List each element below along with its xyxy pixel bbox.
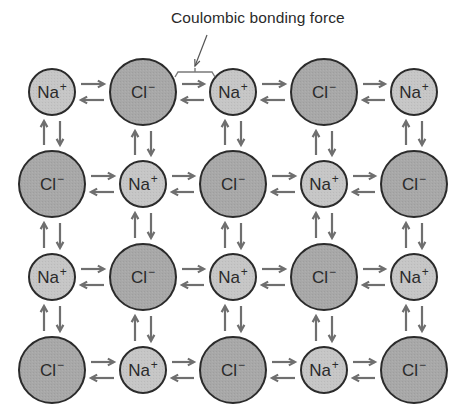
force-arrow-left (172, 189, 194, 196)
force-arrow-right (81, 81, 104, 88)
force-arrow-right (172, 173, 194, 180)
bracket-marker (175, 68, 215, 77)
force-arrow-right (353, 173, 375, 180)
force-arrow-up (41, 223, 48, 248)
force-arrow-right (272, 359, 295, 366)
force-arrow-down (238, 223, 245, 248)
force-arrow-left (262, 97, 285, 104)
sodium-ion: Na+ (29, 69, 75, 115)
chloride-ion: Cl− (110, 59, 176, 125)
force-arrow-right (262, 81, 285, 88)
force-arrow-down (148, 213, 155, 238)
sodium-ion: Na+ (210, 69, 256, 115)
force-arrow-up (403, 306, 410, 331)
pointer-arrow (195, 35, 207, 66)
force-arrow-down (329, 131, 336, 155)
force-arrow-left (91, 189, 114, 196)
sodium-ion: Na+ (120, 347, 166, 393)
chloride-ion: Cl− (291, 244, 357, 310)
force-arrow-right (81, 266, 104, 273)
chloride-ion: Cl− (291, 59, 357, 125)
force-arrow-left (353, 189, 375, 196)
sodium-ion: Na+ (29, 254, 75, 300)
force-arrow-up (313, 316, 320, 341)
force-arrow-left (353, 375, 375, 382)
force-arrow-left (81, 97, 104, 104)
force-arrow-down (329, 316, 336, 341)
force-arrow-left (272, 189, 295, 196)
force-arrow-down (57, 306, 64, 331)
chloride-ion: Cl− (200, 337, 266, 403)
force-arrow-down (148, 131, 155, 155)
force-arrow-up (403, 121, 410, 145)
sodium-ion: Na+ (391, 69, 437, 115)
chloride-ion: Cl− (381, 337, 447, 403)
force-arrow-down (419, 306, 426, 331)
chloride-ion: Cl− (200, 151, 266, 217)
force-arrow-left (182, 97, 204, 104)
force-arrow-right (262, 266, 285, 273)
force-arrow-up (132, 131, 139, 155)
force-arrow-up (313, 131, 320, 155)
chloride-ion: Cl− (19, 151, 85, 217)
sodium-ion: Na+ (301, 347, 347, 393)
force-arrow-up (132, 213, 139, 238)
force-arrow-right (172, 359, 194, 366)
force-arrow-down (419, 121, 426, 145)
force-arrow-right (91, 173, 114, 180)
force-arrow-up (313, 213, 320, 238)
force-arrow-right (353, 359, 375, 366)
force-arrow-left (272, 375, 295, 382)
bonding-force-annotation (175, 35, 215, 77)
force-arrow-down (238, 306, 245, 331)
force-arrow-down (238, 121, 245, 145)
chloride-ion: Cl− (110, 244, 176, 310)
force-arrow-down (419, 223, 426, 248)
chloride-ion: Cl− (19, 337, 85, 403)
force-arrow-up (403, 223, 410, 248)
force-arrow-left (363, 97, 385, 104)
force-arrow-up (222, 223, 229, 248)
force-arrow-down (57, 223, 64, 248)
force-arrow-up (222, 306, 229, 331)
force-arrow-right (91, 359, 114, 366)
sodium-ion: Na+ (301, 161, 347, 207)
nacl-lattice-svg: Na+Cl−Na+Cl−Na+Cl−Na+Cl−Na+Cl−Na+Cl−Na+C… (0, 0, 467, 417)
force-arrow-up (132, 316, 139, 341)
force-arrow-right (363, 81, 385, 88)
sodium-ion: Na+ (391, 254, 437, 300)
force-arrow-left (172, 375, 194, 382)
force-arrow-right (182, 266, 204, 273)
force-arrow-up (41, 121, 48, 145)
force-arrow-left (182, 282, 204, 289)
force-arrow-right (272, 173, 295, 180)
ion-lattice: Na+Cl−Na+Cl−Na+Cl−Na+Cl−Na+Cl−Na+Cl−Na+C… (19, 59, 447, 403)
force-arrow-down (148, 316, 155, 341)
force-arrow-left (262, 282, 285, 289)
force-arrow-left (91, 375, 114, 382)
force-arrow-right (182, 81, 204, 88)
force-arrow-down (57, 121, 64, 145)
force-arrow-down (329, 213, 336, 238)
force-arrow-left (363, 282, 385, 289)
chloride-ion: Cl− (381, 151, 447, 217)
force-arrow-right (363, 266, 385, 273)
sodium-ion: Na+ (210, 254, 256, 300)
sodium-ion: Na+ (120, 161, 166, 207)
force-arrow-up (222, 121, 229, 145)
force-arrow-up (41, 306, 48, 331)
force-arrow-left (81, 282, 104, 289)
